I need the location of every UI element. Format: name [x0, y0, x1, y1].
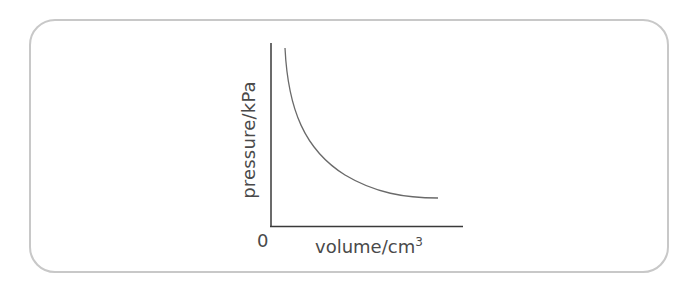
origin-label: 0 [257, 232, 268, 250]
x-axis-label-text: volume/cm [315, 236, 415, 257]
x-axis-label-superscript: 3 [415, 235, 423, 249]
pressure-volume-curve [285, 48, 438, 198]
x-axis-label: volume/cm3 [315, 236, 423, 256]
y-axis-label: pressure/kPa [240, 81, 258, 199]
